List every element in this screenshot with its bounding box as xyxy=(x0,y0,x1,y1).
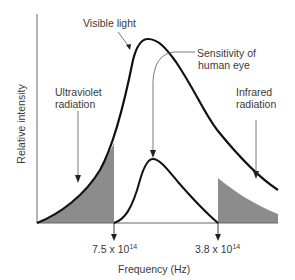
tick-label-uv-boundary: 7.5 x 1014 xyxy=(92,241,137,255)
eye-sensitivity-curve xyxy=(114,159,218,223)
uv-label-line2: radiation xyxy=(55,98,95,110)
arrowhead-icon xyxy=(215,234,221,241)
arrowhead-icon xyxy=(111,234,117,241)
arrowhead-icon xyxy=(75,175,81,183)
sensitivity-label-line1: Sensitivity of xyxy=(197,47,256,59)
ir-label-line2: radiation xyxy=(236,98,276,110)
sensitivity-label-line2: human eye xyxy=(198,59,250,71)
x-axis-label: Frequency (Hz) xyxy=(118,263,190,275)
y-axis-label: Relative intensity xyxy=(15,79,27,169)
uv-shaded-region xyxy=(37,143,114,223)
arrowhead-icon xyxy=(126,44,131,50)
arrowhead-icon xyxy=(150,150,156,158)
tick-label-ir-boundary: 3.8 x 1014 xyxy=(195,241,240,255)
visible-light-label: Visible light xyxy=(83,17,136,29)
uv-label-line1: Ultraviolet xyxy=(55,86,102,98)
ir-label-line1: Infrared xyxy=(236,86,272,98)
spectrum-diagram xyxy=(0,0,295,280)
sensitivity-pointer xyxy=(153,52,195,152)
